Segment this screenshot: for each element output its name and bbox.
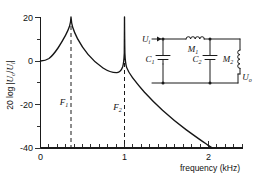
circuit-label-uo: Uo: [242, 72, 252, 83]
y-tick-label-neg40: -40: [20, 143, 33, 153]
junction-dot-input: [162, 38, 165, 41]
junction-dot-c1-ground: [162, 82, 165, 85]
f2-label: F2: [112, 102, 122, 113]
y-axis-title-group: 20 log|Uo/Ui|: [5, 60, 16, 110]
x-axis-group: 0 1 2 frequency (kHz): [38, 141, 243, 173]
circuit-label-uo-sub: o: [249, 77, 252, 83]
y-tick-label-20: 20: [23, 13, 33, 23]
x-ticks-minor: [49, 144, 242, 149]
x-tick-label-1: 1: [122, 152, 127, 162]
m2-inductor-coil: [238, 50, 240, 68]
x-tick-label-2: 2: [206, 152, 211, 162]
junction-dot-c2-top: [209, 38, 212, 41]
circuit-label-c2: C2: [192, 54, 201, 65]
resonance-marker-f2: F2: [112, 28, 124, 148]
circuit-inset: Ui M1 C1 C2 M2 Uo: [142, 34, 252, 85]
m1-inductor-coil: [186, 37, 204, 39]
junction-dot-c2-ground: [209, 82, 212, 85]
f2-label-sub: 2: [119, 107, 122, 113]
circuit-label-c1: C1: [145, 54, 154, 65]
input-arrow-icon: [157, 37, 162, 42]
y-tick-label-neg20: -20: [20, 100, 33, 110]
f1-label: F1: [59, 97, 69, 108]
y-tick-label-0: 0: [28, 56, 33, 66]
circuit-label-c1-sub: 1: [152, 59, 155, 65]
response-curve-group: [41, 17, 213, 148]
circuit-label-c2-sub: 2: [199, 59, 202, 65]
circuit-label-ui: Ui: [142, 34, 151, 45]
y-axis-group: 20 0 -20 -40: [20, 13, 41, 154]
circuit-label-ui-sub: i: [148, 39, 150, 45]
circuit-label-m2-sub: 2: [230, 59, 233, 65]
y-axis-title: 20 log|Uo/Ui|: [5, 60, 16, 110]
figure-svg-canvas: 20 0 -20 -40 20 log|Uo/Ui|: [0, 0, 261, 173]
y-axis-title-prefix: 20 log: [5, 86, 15, 109]
x-axis-title: frequency (kHz): [180, 163, 240, 173]
circuit-label-m2: M2: [222, 54, 234, 65]
figure-magnitude-response-with-circuit-inset: 20 0 -20 -40 20 log|Uo/Ui|: [0, 0, 261, 173]
x-tick-label-0: 0: [38, 152, 43, 162]
magnitude-response-curve: [41, 17, 213, 148]
f1-label-sub: 1: [65, 102, 68, 108]
y-axis-title-bar-close: |: [5, 60, 15, 62]
